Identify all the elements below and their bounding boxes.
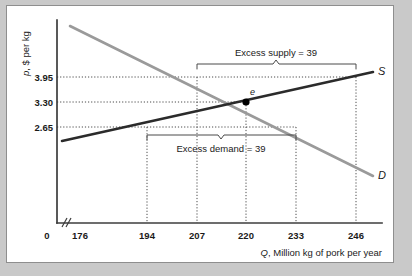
equilibrium-point — [242, 98, 249, 105]
x-tick-246: 246 — [348, 230, 364, 241]
equilibrium-label: e — [250, 87, 255, 97]
x-tick-233: 233 — [288, 230, 304, 241]
y-tick-265: 2.65 — [35, 122, 54, 133]
y-axis-title-rest: , $ per kg — [20, 31, 31, 71]
demand-curve-label: D — [378, 169, 386, 181]
figure-panel: S D e Excess supply = 39 Excess demand =… — [6, 5, 394, 263]
x-tick-207: 207 — [189, 230, 205, 241]
screenshot-root: S D e Excess supply = 39 Excess demand =… — [0, 0, 412, 276]
x-tick-194: 194 — [139, 230, 156, 241]
supply-curve-label: S — [378, 65, 386, 77]
x-tick-labels: 0 176 194 207 220 233 246 — [44, 230, 364, 241]
y-tick-labels: 3.95 3.30 2.65 — [35, 72, 54, 133]
excess-demand-label: Excess demand = 39 — [177, 143, 266, 154]
y-axis-title: p, $ per kg — [20, 31, 31, 77]
excess-supply-label: Excess supply = 39 — [235, 47, 317, 58]
x-tick-220: 220 — [238, 230, 254, 241]
x-axis-title: Q, Million kg of pork per year — [261, 247, 382, 258]
x-axis-title-rest: , Million kg of pork per year — [268, 247, 382, 258]
y-tick-395: 3.95 — [35, 72, 54, 83]
y-tick-330: 3.30 — [35, 97, 54, 108]
axes — [57, 20, 382, 223]
excess-supply-brace — [197, 60, 356, 69]
supply-curve — [62, 72, 373, 141]
x-tick-0: 0 — [44, 230, 49, 241]
x-tick-176: 176 — [72, 230, 88, 241]
excess-demand-brace — [147, 135, 296, 140]
supply-demand-chart: S D e Excess supply = 39 Excess demand =… — [7, 6, 394, 263]
svg-text:p, $ per kg: p, $ per kg — [20, 31, 31, 77]
